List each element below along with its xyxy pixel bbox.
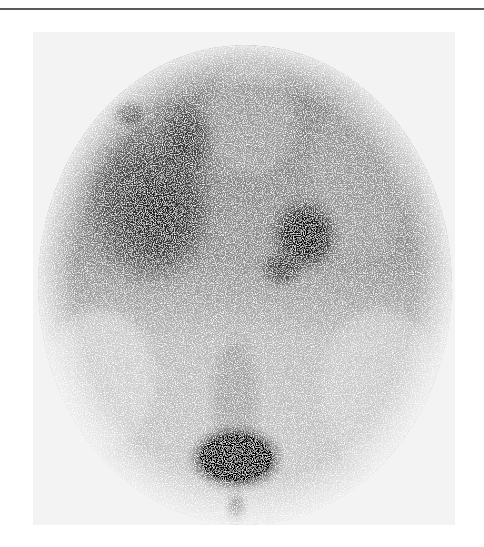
scintigram-image — [0, 0, 484, 547]
